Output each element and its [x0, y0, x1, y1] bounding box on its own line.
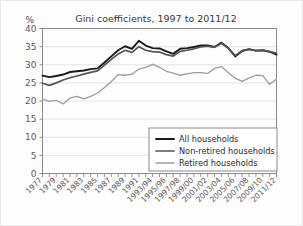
y-tick-label: 5	[31, 151, 37, 161]
legend-label: Retired households	[179, 158, 258, 168]
y-tick-label: 25	[25, 78, 36, 88]
y-tick-label: 30	[25, 60, 37, 70]
y-tick-label: 10	[25, 132, 37, 142]
y-tick-label: 40	[25, 24, 37, 34]
chart-title: Gini coefficients, 1997 to 2011/12	[75, 13, 236, 24]
y-tick-label: 35	[25, 42, 36, 52]
legend-label: Non-retired households	[179, 146, 275, 156]
chart-figure: % Gini coefficients, 1997 to 2011/12 051…	[0, 0, 303, 226]
legend-label: All households	[179, 134, 238, 144]
y-tick-label: 20	[25, 96, 37, 106]
gini-coefficients-line-chart: % Gini coefficients, 1997 to 2011/12 051…	[1, 1, 303, 226]
y-tick-label: 15	[25, 114, 36, 124]
chart-legend: All householdsNon-retired householdsReti…	[149, 128, 277, 171]
